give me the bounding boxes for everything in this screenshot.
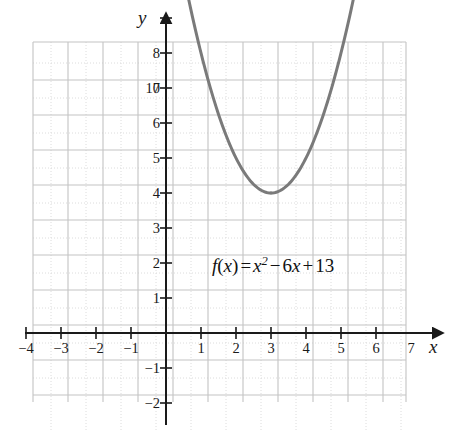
equation-constant: 13 xyxy=(315,255,334,276)
y-tick-label: 5 xyxy=(153,151,160,166)
equation-x-term: x xyxy=(253,255,261,276)
x-axis-label: x xyxy=(429,337,437,356)
graph-figure: y x −4 −3 −2 −1 1 2 3 4 5 6 7 8 −2 −1 1 … xyxy=(0,0,463,430)
y-tick-label: 4 xyxy=(153,186,160,201)
minor-gridlines xyxy=(33,42,406,430)
equation-exponent: 2 xyxy=(262,254,268,268)
coordinate-plane xyxy=(0,0,463,430)
x-axis xyxy=(25,327,434,339)
equation-x-arg: x xyxy=(224,255,232,276)
y-axis xyxy=(160,0,172,425)
x-tick-label: 6 xyxy=(372,341,379,356)
y-tick-label: 1 xyxy=(153,291,160,306)
equation-coefficient: 6 xyxy=(283,255,293,276)
x-tick-label: 2 xyxy=(232,341,239,356)
equation-minus: − xyxy=(268,255,283,276)
y-axis-label: y xyxy=(138,8,146,27)
y-tick-label: 6 xyxy=(153,116,160,131)
x-tick-label: 5 xyxy=(337,341,344,356)
y-tick-label: 8 xyxy=(153,46,160,61)
x-tick-label: −1 xyxy=(123,341,138,356)
x-tick-label: −4 xyxy=(18,341,33,356)
equation-equals: = xyxy=(238,255,253,276)
equation-plus: + xyxy=(300,255,315,276)
y-tick-label-ten: 10 xyxy=(146,81,161,96)
x-tick-label: −2 xyxy=(88,341,103,356)
function-equation-annotation: f(x)=x2−6x+13 xyxy=(212,256,334,275)
x-tick-label: 4 xyxy=(302,341,309,356)
y-tick-label: 3 xyxy=(153,221,160,236)
y-tick-label: 2 xyxy=(153,256,160,271)
x-tick-label: 1 xyxy=(197,341,204,356)
x-tick-label: 7 xyxy=(407,341,414,356)
y-tick-label: −2 xyxy=(145,396,160,411)
parabola-left-branch xyxy=(182,0,271,193)
x-tick-label: −3 xyxy=(53,341,68,356)
x-tick-label: 3 xyxy=(267,341,274,356)
parabola-right-branch xyxy=(271,0,360,193)
y-tick-label: −1 xyxy=(145,361,160,376)
